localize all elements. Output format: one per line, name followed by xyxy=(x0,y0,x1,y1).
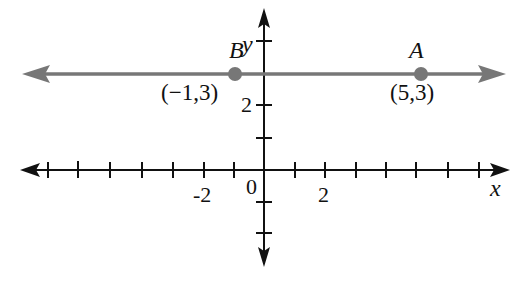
coordinate-plane: y x 0 -2 2 2 B (−1,3) A (5,3) xyxy=(0,0,519,294)
point-b-coords: (−1,3) xyxy=(161,80,218,105)
x-tick-label-neg2: -2 xyxy=(193,182,211,207)
y-tick-label-2: 2 xyxy=(241,92,252,117)
x-tick-label-2: 2 xyxy=(318,182,329,207)
point-a-coords: (5,3) xyxy=(390,80,434,105)
origin-label: 0 xyxy=(246,174,257,199)
point-a-name: A xyxy=(407,37,424,63)
point-a xyxy=(414,67,428,81)
point-b-name: B xyxy=(229,37,244,63)
x-axis-label: x xyxy=(489,175,501,201)
y-axis xyxy=(256,8,272,267)
point-b xyxy=(228,67,242,81)
